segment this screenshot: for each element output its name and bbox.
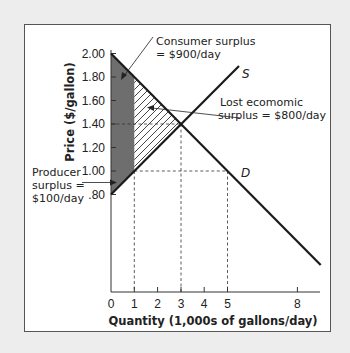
producer-surplus-label-1: Producer: [32, 166, 81, 179]
producer-surplus-label-2: surplus =: [32, 179, 85, 192]
surplus-chart: S D 2.00 1.80 1.60 1.40 1.20 1.00 .80 0 …: [0, 0, 350, 353]
svg-text:2.00: 2.00: [82, 47, 106, 61]
svg-text:8: 8: [294, 297, 301, 311]
consumer-surplus-value: = $900/day: [156, 48, 221, 61]
svg-text:1.40: 1.40: [82, 117, 106, 131]
producer-surplus-value: $100/day: [32, 192, 84, 205]
svg-text:1.60: 1.60: [82, 94, 106, 108]
consumer-surplus-region: [111, 54, 134, 172]
svg-text:1: 1: [131, 297, 138, 311]
consumer-pointer: [124, 37, 153, 76]
svg-text:3: 3: [178, 297, 185, 311]
demand-label: D: [241, 166, 250, 180]
y-tick-labels: 2.00 1.80 1.60 1.40 1.20 1.00 .80: [82, 47, 106, 202]
svg-text:2: 2: [154, 297, 161, 311]
lost-surplus-label: Lost ecomomic: [220, 96, 303, 109]
lost-surplus-value: surplus = $800/day: [218, 109, 327, 122]
svg-text:1.00: 1.00: [82, 164, 106, 178]
svg-text:1.20: 1.20: [82, 141, 106, 155]
x-tick-labels: 0 1 2 3 4 5 8: [108, 297, 301, 311]
x-axis-title: Quantity (1,000s of gallons/day): [108, 314, 317, 328]
svg-text:0: 0: [108, 297, 115, 311]
svg-text:.80: .80: [88, 188, 105, 202]
svg-text:1.80: 1.80: [82, 70, 106, 84]
supply-label: S: [242, 67, 250, 81]
consumer-surplus-label: Consumer surplus: [156, 35, 256, 48]
svg-text:5: 5: [224, 297, 231, 311]
svg-text:4: 4: [201, 297, 208, 311]
y-axis-title: Price ($/gallon): [63, 62, 77, 161]
